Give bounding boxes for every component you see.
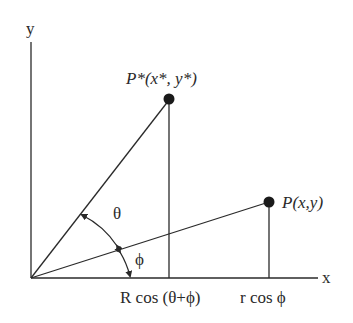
theta-arc: [82, 215, 117, 246]
theta-label: θ: [113, 204, 121, 223]
p-star-x-projection-label: R cos (θ+ϕ): [120, 288, 201, 307]
point-p-star-label: P*(x*, y*): [125, 69, 197, 88]
radius-to-p-star: [31, 100, 169, 278]
y-axis-label: y: [26, 19, 35, 38]
rotation-diagram: y x P*(x*, y*) P(x,y) θ ϕ R cos (θ+ϕ) r …: [0, 0, 353, 323]
x-axis-label: x: [322, 268, 331, 287]
phi-label: ϕ: [135, 250, 144, 269]
p-x-projection-label: r cos ϕ: [240, 288, 286, 307]
radius-to-p: [31, 202, 269, 278]
point-p-star: [164, 94, 175, 105]
point-p: [264, 197, 275, 208]
point-p-label: P(x,y): [281, 193, 323, 212]
phi-arc: [120, 252, 130, 276]
